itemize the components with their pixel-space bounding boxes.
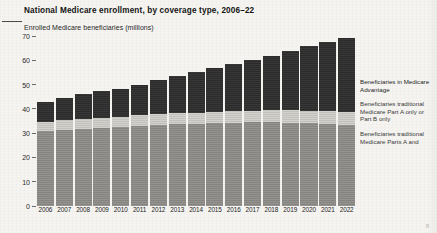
segment-medicare-advantage — [206, 68, 223, 111]
chart-subtitle: Enrolled Medicare beneficiaries (million… — [24, 24, 154, 31]
x-axis-tick-2009: 2009 — [92, 206, 111, 220]
bar-column-2020[interactable] — [300, 36, 317, 206]
segment-medicare-advantage — [169, 76, 186, 113]
segment-parts-a-and-b — [75, 129, 92, 206]
segment-part-a-or-b-only — [206, 112, 223, 123]
segment-part-a-or-b-only — [282, 110, 299, 122]
x-axis-tick-2022: 2022 — [337, 206, 356, 220]
segment-parts-a-and-b — [206, 123, 223, 206]
bar-column-2006[interactable] — [37, 36, 54, 206]
x-axis-tick-2020: 2020 — [300, 206, 319, 220]
segment-parts-a-and-b — [338, 125, 355, 206]
x-axis-tick-2015: 2015 — [205, 206, 224, 220]
x-axis-tick-2021: 2021 — [318, 206, 337, 220]
segment-medicare-advantage — [263, 56, 280, 110]
bar-column-2012[interactable] — [150, 36, 167, 206]
segment-medicare-advantage — [112, 89, 129, 117]
x-axis-tick-2018: 2018 — [262, 206, 281, 220]
segment-parts-a-and-b — [282, 123, 299, 206]
segment-medicare-advantage — [56, 98, 73, 120]
x-axis-tick-2008: 2008 — [74, 206, 93, 220]
segment-medicare-advantage — [37, 102, 54, 122]
segment-part-a-or-b-only — [75, 119, 92, 129]
segment-medicare-advantage — [93, 91, 110, 118]
x-axis-tick-2019: 2019 — [281, 206, 300, 220]
segment-medicare-advantage — [244, 60, 261, 110]
segment-parts-a-and-b — [244, 122, 261, 206]
segment-parts-a-and-b — [150, 125, 167, 206]
chart-legend: Beneficiaries in Medicare AdvantageBenef… — [360, 78, 437, 152]
segment-part-a-or-b-only — [188, 113, 205, 124]
bar-column-2018[interactable] — [263, 36, 280, 206]
bar-column-2022[interactable] — [338, 36, 355, 206]
bar-column-2010[interactable] — [112, 36, 129, 206]
segment-part-a-or-b-only — [225, 111, 242, 123]
y-axis-tick-60: 60 — [22, 57, 30, 64]
legend-item-1[interactable]: Beneficiaries traditional Medicare Part … — [360, 100, 437, 123]
segment-medicare-advantage — [75, 94, 92, 119]
segment-medicare-advantage — [282, 51, 299, 110]
segment-part-a-or-b-only — [319, 111, 336, 124]
segment-medicare-advantage — [188, 72, 205, 113]
y-axis-tick-0: 0 — [26, 203, 30, 210]
segment-parts-a-and-b — [93, 128, 110, 206]
x-axis-tick-2014: 2014 — [187, 206, 206, 220]
bar-column-2021[interactable] — [319, 36, 336, 206]
bar-column-2011[interactable] — [131, 36, 148, 206]
bar-column-2019[interactable] — [282, 36, 299, 206]
y-axis-tick-10: 10 — [22, 178, 30, 185]
segment-part-a-or-b-only — [131, 115, 148, 125]
bar-column-2009[interactable] — [93, 36, 110, 206]
x-axis-tick-2011: 2011 — [130, 206, 149, 220]
legend-label: Beneficiaries traditional Medicare Parts… — [360, 130, 437, 145]
segment-parts-a-and-b — [169, 124, 186, 206]
x-axis-tick-2007: 2007 — [55, 206, 74, 220]
bar-series-container — [36, 36, 356, 206]
legend-item-2[interactable]: Beneficiaries traditional Medicare Parts… — [360, 130, 437, 145]
segment-part-a-or-b-only — [56, 120, 73, 129]
segment-medicare-advantage — [150, 80, 167, 114]
segment-medicare-advantage — [319, 42, 336, 111]
segment-parts-a-and-b — [319, 124, 336, 206]
bar-column-2016[interactable] — [225, 36, 242, 206]
legend-label: Beneficiaries traditional Medicare Part … — [360, 100, 437, 123]
segment-parts-a-and-b — [188, 124, 205, 206]
chart-plot-area: 010203040506070 — [36, 36, 356, 206]
y-axis-tick-40: 40 — [22, 105, 30, 112]
segment-part-a-or-b-only — [169, 113, 186, 124]
bar-column-2008[interactable] — [75, 36, 92, 206]
x-axis-tick-2013: 2013 — [168, 206, 187, 220]
bar-column-2017[interactable] — [244, 36, 261, 206]
x-axis-tick-2017: 2017 — [243, 206, 262, 220]
segment-parts-a-and-b — [131, 126, 148, 206]
segment-part-a-or-b-only — [93, 118, 110, 128]
segment-parts-a-and-b — [112, 127, 129, 206]
title-rule — [2, 21, 22, 22]
bar-column-2014[interactable] — [188, 36, 205, 206]
bar-column-2015[interactable] — [206, 36, 223, 206]
segment-part-a-or-b-only — [263, 110, 280, 122]
legend-item-0[interactable]: Beneficiaries in Medicare Advantage — [360, 78, 437, 93]
bar-column-2007[interactable] — [56, 36, 73, 206]
segment-part-a-or-b-only — [150, 114, 167, 125]
y-axis-tick-70: 70 — [22, 33, 30, 40]
bar-column-2013[interactable] — [169, 36, 186, 206]
x-axis-tick-2012: 2012 — [149, 206, 168, 220]
page-title: National Medicare enrollment, by coverag… — [24, 6, 254, 15]
segment-medicare-advantage — [225, 64, 242, 111]
segment-parts-a-and-b — [225, 123, 242, 206]
y-axis-tick-20: 20 — [22, 154, 30, 161]
segment-parts-a-and-b — [300, 123, 317, 206]
segment-part-a-or-b-only — [244, 111, 261, 123]
x-axis-tick-2016: 2016 — [224, 206, 243, 220]
segment-parts-a-and-b — [263, 122, 280, 206]
segment-parts-a-and-b — [37, 131, 54, 206]
y-axis-tick-30: 30 — [22, 130, 30, 137]
segment-part-a-or-b-only — [112, 117, 129, 127]
x-axis-tick-2006: 2006 — [36, 206, 55, 220]
scan-edge-shadow — [427, 0, 437, 233]
y-axis-tick-50: 50 — [22, 81, 30, 88]
segment-medicare-advantage — [300, 46, 317, 111]
segment-part-a-or-b-only — [300, 111, 317, 124]
x-axis-tick-2010: 2010 — [111, 206, 130, 220]
